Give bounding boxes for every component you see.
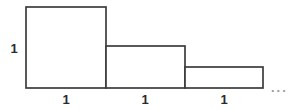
bar-diagram-figure: 1 1 1 1 ... <box>0 0 305 110</box>
x-axis-width-label-2: 1 <box>141 93 148 106</box>
x-axis-width-label-1: 1 <box>62 93 69 106</box>
bar-rect-1 <box>26 7 106 88</box>
bar-diagram-svg <box>0 0 305 110</box>
continuation-ellipsis: ... <box>271 81 288 94</box>
bar-rect-2 <box>106 46 185 88</box>
y-axis-height-label: 1 <box>10 42 17 55</box>
x-axis-width-label-3: 1 <box>220 93 227 106</box>
bar-rect-3 <box>185 67 263 88</box>
